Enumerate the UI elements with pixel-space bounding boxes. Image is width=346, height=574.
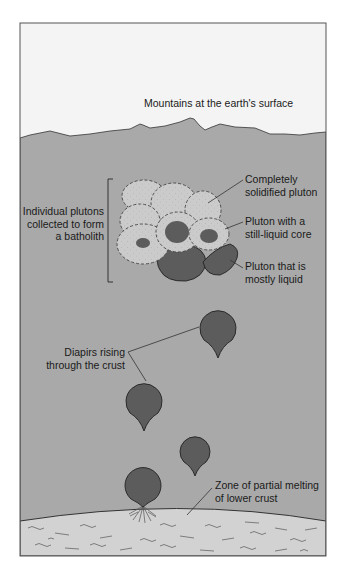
label-liquid-core: Pluton with a still-liquid core	[245, 215, 312, 240]
lower-crust-zone	[20, 509, 326, 557]
label-melting-zone: Zone of partial melting of lower crust	[215, 479, 319, 504]
liquid-core-left	[136, 238, 150, 248]
label-diapirs-line-2: through the crust	[20, 359, 125, 372]
label-batholith-line-2: collected to form	[22, 218, 104, 231]
liquid-core-right	[200, 229, 218, 243]
label-mostly-liquid: Pluton that is mostly liquid	[245, 260, 306, 285]
label-melting-zone-line-2: of lower crust	[215, 492, 319, 505]
label-mostly-liquid-line-2: mostly liquid	[245, 273, 306, 286]
label-mostly-liquid-line-1: Pluton that is	[245, 260, 306, 273]
label-solidified: Completely solidified pluton	[245, 173, 317, 198]
label-surface: Mountains at the earth's surface	[144, 97, 293, 110]
label-liquid-core-line-1: Pluton with a	[245, 215, 312, 228]
label-liquid-core-line-2: still-liquid core	[245, 228, 312, 241]
label-batholith-line-3: a batholith	[22, 230, 104, 243]
label-batholith: Individual plutons collected to form a b…	[22, 205, 104, 243]
label-solidified-line-1: Completely	[245, 173, 317, 186]
label-melting-zone-line-1: Zone of partial melting	[215, 479, 319, 492]
label-batholith-line-1: Individual plutons	[22, 205, 104, 218]
liquid-core-center	[165, 221, 189, 243]
label-diapirs: Diapirs rising through the crust	[20, 346, 125, 371]
label-diapirs-line-1: Diapirs rising	[20, 346, 125, 359]
label-solidified-line-2: solidified pluton	[245, 186, 317, 199]
